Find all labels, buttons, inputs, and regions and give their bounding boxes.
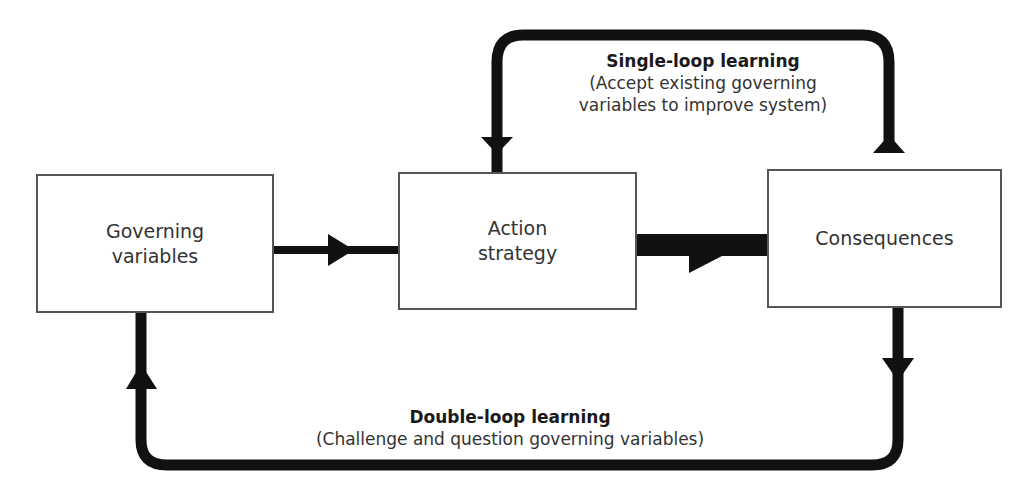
single-loop-description: (Accept existing governing variables to … [530, 72, 876, 116]
arrow-down-from-consequences-icon [882, 358, 914, 381]
single-loop-title: Single-loop learning [530, 50, 876, 72]
single-loop-label: Single-loop learning (Accept existing go… [530, 50, 876, 116]
node-label: Action strategy [478, 216, 557, 266]
node-label: Consequences [815, 226, 953, 251]
arrow-down-into-action-icon [481, 137, 513, 154]
node-action-strategy: Action strategy [398, 172, 637, 310]
arrow-action-to-consequences [636, 234, 767, 273]
node-governing-variables: Governing variables [36, 174, 274, 313]
node-consequences: Consequences [767, 169, 1002, 308]
double-loop-description: (Challenge and question governing variab… [260, 428, 760, 450]
double-loop-title: Double-loop learning [260, 406, 760, 428]
double-loop-label: Double-loop learning (Challenge and ques… [260, 406, 760, 450]
arrow-governing-to-action [273, 234, 398, 266]
node-label: Governing variables [106, 219, 204, 269]
arrow-up-into-governing-icon [126, 364, 157, 389]
arrow-up-from-consequences-icon [873, 135, 905, 153]
